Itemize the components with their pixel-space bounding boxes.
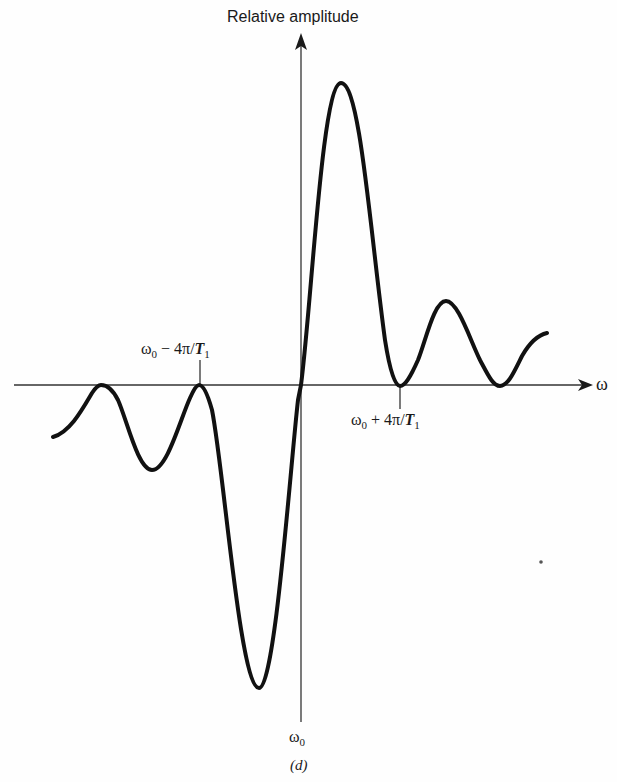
origin-label: ω0 xyxy=(289,728,305,746)
period-symbol: T xyxy=(405,411,415,428)
figure-caption: (d) xyxy=(290,757,308,774)
period-symbol: T xyxy=(195,340,205,357)
omega-symbol: ω xyxy=(141,340,152,357)
upper-tick-label: ω0 + 4π/T1 xyxy=(351,411,420,429)
chart-canvas xyxy=(0,0,617,782)
omega-symbol: ω xyxy=(289,728,300,745)
x-axis-label: ω xyxy=(596,374,608,395)
subscript: 1 xyxy=(204,348,210,360)
y-axis-label: Relative amplitude xyxy=(227,8,359,26)
scan-speck xyxy=(539,560,543,564)
subscript: 0 xyxy=(152,348,158,360)
figure: Relative amplitude ω0 − 4π/T1 ω0 + 4π/T1… xyxy=(0,0,617,782)
tick-expression: + 4π/ xyxy=(367,411,405,428)
subscript: 0 xyxy=(300,736,306,748)
tick-expression: − 4π/ xyxy=(157,340,195,357)
subscript: 1 xyxy=(414,419,420,431)
lower-tick-label: ω0 − 4π/T1 xyxy=(141,340,210,358)
omega-symbol: ω xyxy=(351,411,362,428)
subscript: 0 xyxy=(362,419,368,431)
